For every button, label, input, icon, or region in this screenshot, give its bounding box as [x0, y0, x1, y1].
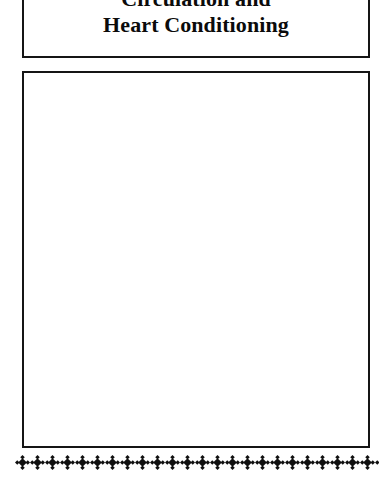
quatrefoil-diamond-icon	[180, 455, 195, 470]
quatrefoil-diamond-icon	[45, 455, 60, 470]
quatrefoil-diamond-icon	[285, 455, 300, 470]
quatrefoil-border	[15, 453, 379, 472]
content-area	[24, 73, 368, 446]
quatrefoil-diamond-icon	[30, 455, 45, 470]
quatrefoil-diamond-icon	[210, 455, 225, 470]
quatrefoil-diamond-icon	[315, 455, 330, 470]
quatrefoil-diamond-icon	[150, 455, 165, 470]
chapter-title-line-2: Heart Conditioning	[103, 12, 289, 38]
chapter-title-box: Circulation and Heart Conditioning	[22, 0, 370, 58]
quatrefoil-diamond-icon	[270, 455, 285, 470]
quatrefoil-diamond-icon	[360, 455, 375, 470]
quatrefoil-diamond-icon	[90, 455, 105, 470]
quatrefoil-diamond-icon	[15, 455, 30, 470]
quatrefoil-diamond-icon	[345, 455, 360, 470]
quatrefoil-diamond-icon	[75, 455, 90, 470]
empty-content-box	[22, 71, 370, 448]
quatrefoil-diamond-icon	[255, 455, 270, 470]
quatrefoil-diamond-icon	[135, 455, 150, 470]
quatrefoil-diamond-icon	[105, 455, 120, 470]
quatrefoil-diamond-icon	[165, 455, 180, 470]
quatrefoil-diamond-icon	[330, 455, 345, 470]
quatrefoil-diamond-icon	[300, 455, 315, 470]
quatrefoil-diamond-icon	[240, 455, 255, 470]
chapter-title-line-1: Circulation and	[121, 0, 271, 12]
quatrefoil-diamond-icon	[195, 455, 210, 470]
document-page: Circulation and Heart Conditioning	[0, 0, 391, 477]
quatrefoil-diamond-icon	[375, 455, 379, 470]
quatrefoil-diamond-icon	[60, 455, 75, 470]
quatrefoil-diamond-icon	[120, 455, 135, 470]
quatrefoil-diamond-icon	[225, 455, 240, 470]
